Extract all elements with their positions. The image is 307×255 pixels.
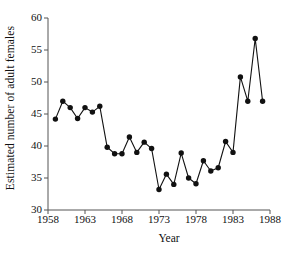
data-point — [75, 116, 80, 121]
data-point — [105, 145, 110, 150]
data-series-markers — [53, 36, 266, 192]
x-axis-tick-label: 1978 — [176, 213, 216, 226]
chart-svg — [48, 18, 270, 210]
data-point — [119, 151, 124, 156]
data-point — [134, 150, 139, 155]
y-axis-ticks — [44, 18, 48, 210]
data-point — [223, 139, 228, 144]
data-point — [142, 139, 147, 144]
data-point — [238, 74, 243, 79]
data-point — [253, 36, 258, 41]
data-series-line — [55, 38, 262, 189]
y-axis-tick-label: 45 — [20, 108, 42, 119]
data-point — [82, 105, 87, 110]
data-point — [171, 182, 176, 187]
data-point — [127, 134, 132, 139]
data-point — [112, 151, 117, 156]
data-point — [164, 171, 169, 176]
data-point — [68, 105, 73, 110]
data-point — [245, 99, 250, 104]
y-axis-title: Estimated number of adult females — [0, 0, 20, 215]
data-point — [149, 146, 154, 151]
x-axis-tick-label: 1973 — [139, 213, 179, 226]
y-axis-tick-label: 60 — [20, 12, 42, 23]
x-axis-tick-label: 1963 — [65, 213, 105, 226]
data-point — [193, 181, 198, 186]
y-axis-tick-label: 55 — [20, 44, 42, 55]
data-point — [179, 150, 184, 155]
x-axis-title: Year — [44, 232, 294, 244]
data-point — [186, 175, 191, 180]
y-axis-tick-label: 35 — [20, 172, 42, 183]
y-axis-tick-label: 50 — [20, 76, 42, 87]
x-axis-tick-label: 1988 — [250, 213, 290, 226]
data-point — [97, 104, 102, 109]
y-axis-tick-label: 40 — [20, 140, 42, 151]
x-axis-tick-label: 1983 — [213, 213, 253, 226]
data-point — [90, 109, 95, 114]
data-point — [208, 168, 213, 173]
data-point — [260, 99, 265, 104]
data-point — [60, 99, 65, 104]
data-point — [156, 187, 161, 192]
data-point — [201, 158, 206, 163]
data-point — [230, 150, 235, 155]
x-axis-tick-labels: 1958196319681973197819831988 — [0, 213, 307, 229]
y-axis-title-text: Estimated number of adult females — [4, 25, 16, 189]
x-axis-tick-label: 1968 — [102, 213, 142, 226]
x-axis-tick-label: 1958 — [28, 213, 68, 226]
data-point — [216, 165, 221, 170]
plot-area — [48, 18, 270, 210]
chart-figure: Estimated number of adult females 303540… — [0, 0, 307, 255]
data-point — [53, 116, 58, 121]
